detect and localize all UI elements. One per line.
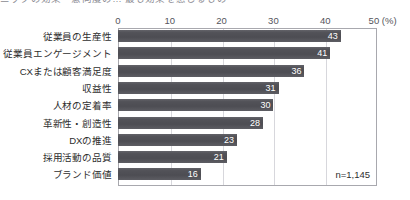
bar-value-label: 23: [118, 134, 237, 146]
bar-value-label: 21: [118, 151, 227, 163]
bar-row: 16: [118, 166, 377, 183]
bar-value-label: 28: [118, 117, 263, 129]
category-label: ブランド価値: [53, 166, 112, 183]
bar-value-label: 31: [118, 82, 279, 94]
bar-row: 43: [118, 28, 377, 45]
bar-row: 41: [118, 45, 377, 62]
clipped-header-text: ニックの効果・意向度の… 最も効果を感じるもの: [0, 0, 300, 3]
bar-value-label: 43: [118, 30, 341, 42]
category-label: 人材の定着率: [53, 97, 112, 114]
x-tick-label-50: 50 (%): [369, 15, 397, 26]
category-label: DXの推進: [69, 132, 112, 149]
bar-value-label: 30: [118, 99, 273, 111]
x-tick-label-0: 0: [115, 15, 120, 26]
horizontal-bar-chart: ニックの効果・意向度の… 最も効果を感じるもの 01020304050 (%) …: [0, 0, 410, 200]
x-tick-label-20: 20: [216, 15, 227, 26]
category-label: 採用活動の品質: [43, 149, 112, 166]
bars-layer: 434136313028232116: [118, 28, 377, 186]
category-axis-labels: 従業員の生産性従業員エンゲージメントCXまたは顧客満足度収益性人材の定着率革新性…: [0, 28, 115, 186]
bar-value-label: 41: [118, 47, 330, 59]
bar-row: 36: [118, 63, 377, 80]
x-tick-label-30: 30: [268, 15, 279, 26]
bar-row: 23: [118, 132, 377, 149]
bar-row: 28: [118, 115, 377, 132]
x-tick-label-40: 40: [320, 15, 331, 26]
category-label: 収益性: [82, 80, 112, 97]
x-tick-label-10: 10: [165, 15, 176, 26]
x-axis-tick-labels: 01020304050 (%): [0, 15, 410, 28]
bar-row: 31: [118, 80, 377, 97]
bar-row: 21: [118, 149, 377, 166]
category-label: 従業員の生産性: [43, 28, 112, 45]
bar-value-label: 16: [118, 168, 201, 180]
bar-row: 30: [118, 97, 377, 114]
category-label: 従業員エンゲージメント: [3, 45, 112, 62]
category-label: CXまたは顧客満足度: [20, 63, 112, 80]
category-label: 革新性・創造性: [43, 115, 112, 132]
bar-value-label: 36: [118, 65, 304, 77]
